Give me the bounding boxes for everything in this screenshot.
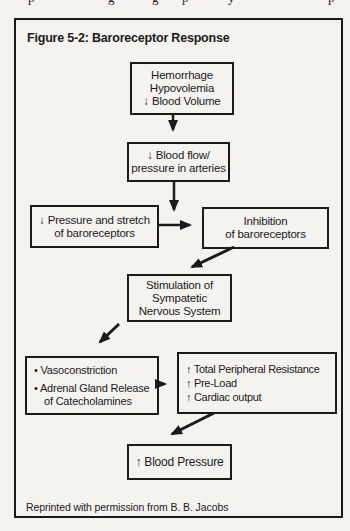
- flow-box-line: of baroreceptors: [225, 228, 306, 241]
- cropped-glyph: p: [328, 0, 335, 6]
- flow-box-outcomes: ↑ Total Peripheral Resistance ↑ Pre-Load…: [177, 352, 337, 414]
- figure-caption: Reprinted with permission from B. B. Jac…: [26, 501, 228, 513]
- flow-box-blood-flow: ↓ Blood flow/ pressure in arteries: [127, 142, 230, 182]
- flow-box-line: ↓ Pressure and stretch: [39, 214, 150, 227]
- flow-box-line: of Catecholamines: [34, 395, 132, 408]
- flow-box-effectors: • Vasoconstriction • Adrenal Gland Relea…: [25, 356, 159, 415]
- cropped-text-line: p g g p y p: [0, 0, 350, 6]
- flow-box-hemorrhage: Hemorrhage Hypovolemia ↓ Blood Volume: [130, 62, 234, 115]
- flow-box-line: Hypovolemia: [150, 82, 214, 95]
- flow-box-pressure-stretch: ↓ Pressure and stretch of baroreceptors: [30, 205, 159, 248]
- flow-box-line: pressure in arteries: [131, 162, 225, 175]
- flow-box-line: Sympatetic: [152, 292, 207, 305]
- flow-box-line: ↑ Blood Pressure: [135, 456, 223, 469]
- cropped-glyph: g: [108, 0, 115, 6]
- flow-box-stimulation-sns: Stimulation of Sympatetic Nervous System: [127, 274, 232, 322]
- flow-box-bullet-line: • Adrenal Gland Release: [34, 382, 149, 395]
- cropped-glyph: g: [152, 0, 159, 6]
- figure-frame: Figure 5-2: Baroreceptor Response Hemorr…: [14, 18, 343, 518]
- flow-box-line: ↑ Total Peripheral Resistance: [186, 362, 320, 376]
- flow-box-line: of baroreceptors: [54, 227, 135, 240]
- flow-box-inhibition: Inhibition of baroreceptors: [202, 207, 329, 249]
- cropped-glyph: p: [28, 0, 35, 6]
- flow-box-bullet-line: • Vasoconstriction: [34, 364, 117, 377]
- flow-box-line: ↑ Pre-Load: [186, 376, 237, 390]
- flow-box-line: Stimulation of: [146, 279, 213, 292]
- cropped-glyph: y: [228, 0, 235, 6]
- flow-box-line: Inhibition: [243, 215, 287, 228]
- flow-box-blood-pressure: ↑ Blood Pressure: [127, 444, 232, 480]
- flow-box-line: Nervous System: [139, 305, 221, 318]
- flow-box-line: ↓ Blood Volume: [143, 95, 220, 108]
- flow-box-line: Hemorrhage: [151, 69, 213, 82]
- flow-box-line: ↓ Blood flow/: [147, 149, 210, 162]
- figure-title: Figure 5-2: Baroreceptor Response: [27, 31, 229, 45]
- cropped-glyph: p: [182, 0, 189, 6]
- book-page: { "page_top": { "fragments": [ {"glyph":…: [0, 0, 350, 531]
- flow-box-line: ↑ Cardiac output: [186, 390, 261, 404]
